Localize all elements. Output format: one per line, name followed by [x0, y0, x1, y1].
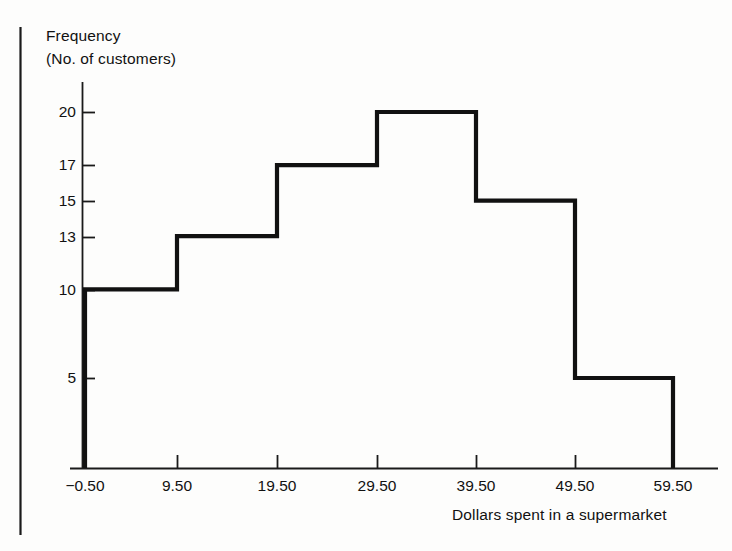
- x-tick-label-59-50: 59.50: [633, 477, 713, 495]
- y-axis-title-line-1: Frequency: [46, 24, 176, 47]
- histogram-outline: [85, 112, 673, 468]
- x-tick-label-39-50: 39.50: [436, 477, 516, 495]
- y-tick-label-17: 17: [42, 156, 76, 174]
- y-axis-title: Frequency (No. of customers): [46, 24, 176, 70]
- x-axis-title: Dollars spent in a supermarket: [452, 506, 667, 524]
- x-tick-label-9-50: 9.50: [137, 477, 217, 495]
- y-tick-label-20: 20: [42, 103, 76, 121]
- y-tick-label-5: 5: [42, 369, 76, 387]
- y-tick-label-15: 15: [42, 192, 76, 210]
- histogram-plot: [0, 0, 732, 551]
- x-axis-ticks: [86, 455, 674, 468]
- x-tick-label-19-50: 19.50: [237, 477, 317, 495]
- figure-canvas: Frequency (No. of customers) 20 17 15 13…: [0, 0, 732, 551]
- x-tick-label-29-50: 29.50: [337, 477, 417, 495]
- y-tick-label-10: 10: [42, 281, 76, 299]
- y-axis-title-line-2: (No. of customers): [46, 47, 176, 70]
- x-tick-label-49-50: 49.50: [535, 477, 615, 495]
- x-tick-label-minus-0-50: −0.50: [45, 477, 125, 495]
- y-tick-label-13: 13: [42, 228, 76, 246]
